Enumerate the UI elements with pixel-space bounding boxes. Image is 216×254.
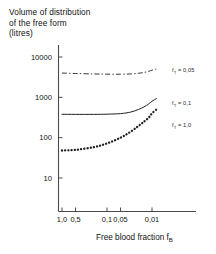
y-axis-ticks [59,57,63,178]
legend-item-3: fT = 1,0 [172,122,191,130]
legend-item-2: fT = 0,1 [172,100,191,108]
x-axis-title-subscript: B [169,237,173,243]
y-tick-label: 10 [16,174,52,183]
y-tick-label: 100 [16,133,52,142]
data-series-layer [62,69,156,150]
legend-value: = 1,0 [176,122,191,128]
x-axis-title: Free blood fraction fB [96,233,173,243]
x-axis-title-text: Free blood fraction f [96,233,169,242]
series-curve-2 [62,99,156,115]
x-axis-ticks [62,208,152,212]
legend-value: = 0,1 [176,100,191,106]
x-tick-label: 0,05 [108,215,134,224]
x-tick-label: 0,01 [139,215,165,224]
legend-value: = 0,05 [176,67,194,73]
series-curve-1 [62,69,156,74]
series-curve-3 [62,109,156,150]
x-tick-label: 0,5 [63,215,89,224]
chart-figure: Volume of distribution of the free form … [0,0,216,254]
y-tick-label: 1000 [16,93,52,102]
legend-item-1: fT = 0,05 [172,67,194,75]
y-tick-label: 10000 [16,53,52,62]
